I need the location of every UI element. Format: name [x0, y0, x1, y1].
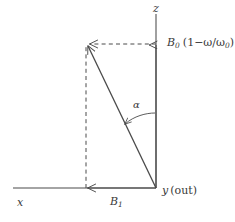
alpha-angle-label: α	[133, 100, 140, 110]
b0-expression-open: (1−ω/ω	[180, 36, 225, 49]
x-axis-label: x	[17, 197, 23, 208]
b1-subscript: 1	[118, 200, 123, 209]
b1-symbol: B	[110, 195, 118, 208]
vector-diagram-figure: z x y(out) B0(1−ω/ω0) B1 α	[0, 0, 235, 222]
diagram-canvas	[0, 0, 235, 222]
y-axis-out-note: (out)	[168, 184, 197, 197]
alpha-angle-arc	[125, 113, 155, 124]
z-axis-label: z	[153, 3, 159, 14]
b0-expression-close: )	[230, 36, 234, 49]
effective-field-vector-arrow	[88, 46, 156, 188]
b0-symbol: B	[167, 36, 175, 49]
b0-vector-label: B0(1−ω/ω0)	[167, 37, 234, 48]
y-axis-out-label: y(out)	[162, 185, 197, 196]
b1-vector-label: B1	[110, 196, 123, 207]
